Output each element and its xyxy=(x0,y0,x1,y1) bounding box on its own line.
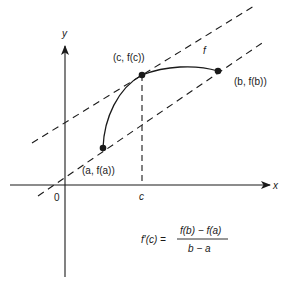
secant-line-a-b xyxy=(38,41,265,196)
x-axis-label: x xyxy=(272,180,279,191)
curve-f-label: f xyxy=(203,45,207,56)
point-b-label: (b, f(b)) xyxy=(234,76,267,87)
point-b xyxy=(215,68,222,75)
mean-value-theorem-diagram: y x 0 c (a, f(a)) (c, f(c)) (b, f(b)) f … xyxy=(0,0,284,283)
formula-lhs: f′(c) = xyxy=(141,234,166,245)
point-a xyxy=(100,145,107,152)
curve-f xyxy=(103,67,218,148)
point-a-label: (a, f(a)) xyxy=(82,165,115,176)
formula-denominator: b − a xyxy=(188,243,211,254)
point-c-label: (c, f(c)) xyxy=(113,52,145,63)
y-axis-label: y xyxy=(61,28,68,39)
point-c xyxy=(139,72,146,79)
origin-label: 0 xyxy=(54,192,60,203)
formula-numerator: f(b) − f(a) xyxy=(180,225,221,236)
c-tick-label: c xyxy=(139,191,144,202)
